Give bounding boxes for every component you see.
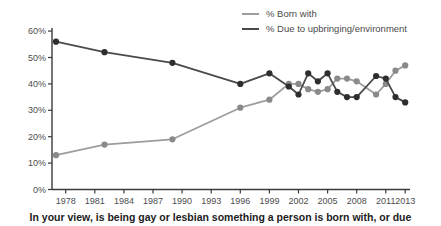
data-point (169, 60, 175, 66)
data-point (295, 91, 301, 97)
data-point (334, 89, 340, 95)
data-point (305, 86, 311, 92)
data-point (266, 70, 272, 76)
data-point (53, 39, 59, 45)
legend-label: % Due to upbringing/environment (266, 23, 407, 34)
x-tick-label: 1990 (172, 196, 192, 206)
data-point (286, 83, 292, 89)
x-tick-label: 1978 (56, 196, 76, 206)
legend-item: % Due to upbringing/environment (242, 22, 407, 35)
data-point (305, 70, 311, 76)
x-tick-label: 1993 (201, 196, 221, 206)
legend-item: % Born with (242, 7, 407, 20)
data-point (325, 70, 331, 76)
legend-label: % Born with (266, 8, 317, 19)
legend: % Born with% Due to upbringing/environme… (242, 7, 407, 35)
data-point (334, 76, 340, 82)
data-point (169, 136, 175, 142)
data-point (373, 73, 379, 79)
data-point (392, 68, 398, 74)
legend-line-swatch (242, 13, 259, 15)
data-point (101, 49, 107, 55)
y-tick-label: 60% (28, 26, 46, 36)
y-tick-label: 0% (33, 185, 46, 195)
data-point (383, 76, 389, 82)
data-point (101, 142, 107, 148)
legend-line-swatch (242, 28, 259, 30)
x-tick-label: 1996 (230, 196, 250, 206)
data-point (237, 105, 243, 111)
data-point (373, 91, 379, 97)
data-point (354, 94, 360, 100)
y-tick-label: 10% (28, 158, 46, 168)
trend-chart: 0%10%20%30%40%50%60%19781981198419871990… (0, 0, 441, 226)
data-point (402, 62, 408, 68)
data-point (402, 99, 408, 105)
x-tick-label: 2002 (288, 196, 308, 206)
data-point (354, 78, 360, 84)
born-with-line (56, 65, 405, 155)
y-tick-label: 40% (28, 79, 46, 89)
data-point (53, 152, 59, 158)
data-point (266, 97, 272, 103)
chart-caption: In your view, is being gay or lesbian so… (0, 211, 441, 223)
y-tick-label: 20% (28, 132, 46, 142)
upbringing-line (56, 42, 405, 103)
y-tick-label: 30% (28, 105, 46, 115)
data-point (315, 78, 321, 84)
x-tick-label: 1984 (114, 196, 134, 206)
data-point (237, 81, 243, 87)
x-tick-label: 1987 (143, 196, 163, 206)
y-tick-label: 50% (28, 53, 46, 63)
data-point (295, 81, 301, 87)
data-point (344, 76, 350, 82)
x-tick-label: 1999 (259, 196, 279, 206)
x-tick-label: 2005 (318, 196, 338, 206)
x-tick-label: 2008 (347, 196, 367, 206)
x-tick-label: 1981 (85, 196, 105, 206)
data-point (392, 94, 398, 100)
x-tick-label: 2011 (376, 196, 395, 206)
data-point (315, 89, 321, 95)
data-point (325, 86, 331, 92)
x-tick-label: 2013 (395, 196, 415, 206)
data-point (344, 94, 350, 100)
